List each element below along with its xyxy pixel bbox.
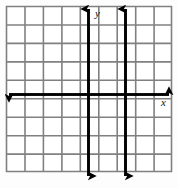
graph-canvas xyxy=(0,0,178,188)
y-axis-label: y xyxy=(95,8,100,19)
x-axis-label: x xyxy=(161,97,166,108)
coordinate-grid-figure: y x xyxy=(0,0,178,188)
